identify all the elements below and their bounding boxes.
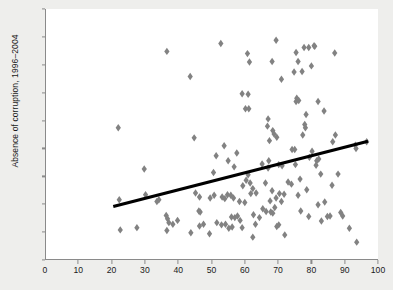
data-point [267, 197, 272, 204]
data-point [197, 222, 202, 229]
data-point [142, 165, 147, 172]
data-point [207, 230, 212, 237]
data-point [240, 182, 245, 189]
data-point [118, 226, 123, 233]
data-point [322, 198, 327, 205]
trendline-layer [113, 141, 368, 206]
data-point [263, 179, 268, 186]
y-axis-label: Absence of corruption, 1996–2004 [10, 1, 20, 201]
data-point [292, 146, 297, 153]
data-point [201, 221, 206, 228]
x-tick-mark [244, 260, 245, 264]
x-tick-mark [178, 260, 179, 264]
data-point [299, 68, 304, 75]
x-tick-mark [377, 260, 378, 264]
x-tick-mark [78, 260, 79, 264]
data-point [295, 192, 300, 199]
data-point [267, 137, 272, 144]
data-point [282, 231, 287, 238]
data-point [297, 175, 302, 182]
data-point [301, 44, 306, 51]
y-tick-mark [42, 92, 46, 93]
data-point [266, 157, 271, 164]
data-point [214, 219, 219, 226]
x-tick-mark [111, 260, 112, 264]
data-point [232, 163, 237, 170]
x-tick-mark [311, 260, 312, 264]
plot-area-wrapper: −1.5−1.0−0.50.00.51.01.52.02.53.0 010203… [45, 9, 378, 260]
data-point [321, 107, 326, 114]
data-point [318, 170, 323, 177]
data-point [303, 111, 308, 118]
data-point [335, 170, 340, 177]
data-point [188, 73, 193, 80]
chart-canvas [45, 9, 378, 260]
data-point [265, 115, 270, 122]
y-tick-mark [42, 259, 46, 260]
data-point [247, 58, 252, 65]
data-point [265, 122, 270, 129]
data-point [134, 224, 139, 231]
data-point [293, 49, 298, 56]
data-point [269, 58, 274, 65]
y-tick-mark [42, 204, 46, 205]
data-point [329, 182, 334, 189]
data-point [239, 90, 244, 97]
y-tick-mark [42, 36, 46, 37]
x-tick-mark [278, 260, 279, 264]
data-point [347, 224, 352, 231]
data-point [170, 221, 175, 228]
x-tick-label: 100 [358, 265, 393, 275]
data-point [315, 201, 320, 208]
data-point [304, 186, 309, 193]
data-point [319, 217, 324, 224]
x-tick-mark [344, 260, 345, 264]
y-tick-mark [42, 148, 46, 149]
data-point [188, 229, 193, 236]
scatter-chart-figure: Absence of corruption, 1996–2004 −1.5−1.… [0, 0, 393, 290]
data-point [193, 189, 198, 196]
data-point [222, 142, 227, 149]
data-point [277, 190, 282, 197]
trendline [113, 141, 368, 206]
data-point [293, 161, 298, 168]
data-point [330, 138, 335, 145]
data-point [175, 217, 180, 224]
data-points-layer [116, 37, 370, 246]
data-point [298, 207, 303, 214]
data-point [269, 187, 274, 194]
data-point [309, 62, 314, 69]
data-point [250, 233, 255, 240]
data-point [239, 224, 244, 231]
y-tick-mark [42, 120, 46, 121]
data-point [257, 214, 262, 221]
data-point [333, 131, 338, 138]
data-point [116, 124, 121, 131]
data-point [291, 68, 296, 75]
data-point [315, 98, 320, 105]
data-point [211, 169, 216, 176]
data-point [218, 40, 223, 47]
data-point [164, 227, 169, 234]
data-point [300, 131, 305, 138]
data-point [246, 105, 251, 112]
x-tick-mark [144, 260, 145, 264]
x-tick-mark [211, 260, 212, 264]
data-point [117, 196, 122, 203]
data-point [295, 58, 300, 65]
data-point [226, 157, 231, 164]
data-point [332, 49, 337, 56]
data-point [253, 189, 258, 196]
y-tick-mark [42, 232, 46, 233]
data-point [192, 134, 197, 141]
data-point [279, 198, 284, 205]
data-point [234, 149, 239, 156]
data-point [281, 190, 286, 197]
y-tick-mark [42, 64, 46, 65]
data-point [306, 44, 311, 51]
data-point [279, 76, 284, 83]
data-point [273, 194, 278, 201]
data-point [197, 193, 202, 200]
data-point [306, 213, 311, 220]
y-tick-mark [42, 8, 46, 9]
